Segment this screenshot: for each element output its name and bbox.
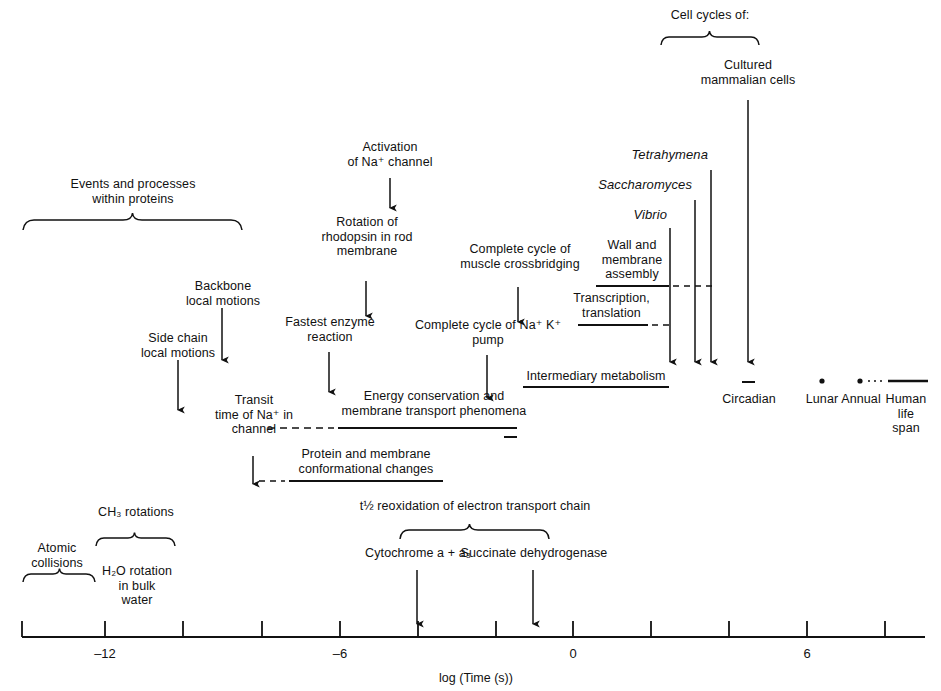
time-axis	[22, 621, 925, 637]
axis-tick-label-zero: 0	[543, 646, 603, 661]
label-succinate-dehydrogenase: Succinate dehydrogenase	[458, 546, 610, 561]
marker-lunar	[819, 378, 824, 383]
label-human-life-span: Human life span	[874, 392, 938, 436]
label-vibrio: Vibrio	[590, 208, 667, 223]
label-complete-cycle-muscle: Complete cycle of muscle crossbridging	[455, 242, 585, 271]
label-complete-cycle-nak-pump: Complete cycle of Na⁺ K⁺ pump	[409, 318, 567, 347]
label-tetrahymena: Tetrahymena	[595, 148, 708, 163]
label-atomic-collisions: Atomic collisions	[17, 541, 97, 570]
brace-events-within-proteins	[23, 213, 242, 230]
label-cell-cycles-of: Cell cycles of:	[650, 8, 770, 23]
bar-energy-conservation	[268, 428, 517, 437]
axis-tick-label-six: 6	[777, 646, 837, 661]
axis-title: log (Time (s))	[411, 671, 541, 685]
label-transcription-translation: Transcription, translation	[559, 291, 664, 320]
axis-tick-label-minus12: –12	[75, 646, 135, 661]
label-circadian: Circadian	[709, 392, 789, 407]
timescale-figure: Cell cycles of: Cultured mammalian cells…	[0, 0, 941, 691]
label-h2o-rotation: H₂O rotation in bulk water	[90, 564, 184, 608]
label-intermediary-metabolism: Intermediary metabolism	[518, 369, 674, 384]
label-saccharomyces: Saccharomyces	[575, 178, 692, 193]
label-fastest-enzyme-reaction: Fastest enzyme reaction	[272, 315, 388, 344]
label-energy-conservation: Energy conservation and membrane transpo…	[334, 389, 534, 418]
label-t-half-reoxidation: t½ reoxidation of electron transport cha…	[344, 499, 606, 514]
marker-annual	[857, 378, 862, 383]
label-backbone-local-motions: Backbone local motions	[163, 279, 283, 308]
label-wall-and-membrane-assembly: Wall and membrane assembly	[593, 238, 671, 282]
label-side-chain-local-motions: Side chain local motions	[119, 331, 237, 360]
label-protein-membrane-conformational: Protein and membrane conformational chan…	[288, 447, 444, 476]
axis-tick-label-minus6: –6	[310, 646, 370, 661]
brace-ch3-rotations	[96, 533, 175, 547]
label-activation-na-channel: Activation of Na⁺ channel	[330, 140, 450, 169]
label-events-and-processes: Events and processes within proteins	[62, 177, 204, 206]
label-transit-time-na: Transit time of Na⁺ in channel	[204, 393, 304, 437]
label-rotation-rhodopsin: Rotation of rhodopsin in rod membrane	[306, 215, 428, 259]
brace-atomic-collisions	[23, 569, 95, 583]
brace-electron-transport	[400, 524, 549, 539]
brace-cell-cycles	[661, 31, 759, 45]
label-ch3-rotations: CH₃ rotations	[84, 505, 188, 520]
label-cultured-mammalian-cells: Cultured mammalian cells	[683, 58, 813, 87]
